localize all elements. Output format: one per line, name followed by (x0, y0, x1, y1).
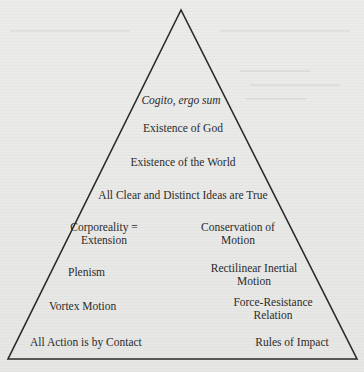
corporeality-line-2: Extension (70, 234, 137, 247)
tier-cogito: Cogito, ergo sum (141, 94, 220, 107)
left-vortex-motion: Vortex Motion (49, 300, 116, 313)
tier-existence-of-god: Existence of God (143, 122, 223, 135)
inertial-line-1: Rectilinear Inertial (211, 262, 298, 275)
corporeality-line-1: Corporeality = (70, 221, 137, 234)
right-conservation-of-motion: Conservation of Motion (201, 221, 275, 247)
conservation-line-2: Motion (201, 234, 275, 247)
left-action-by-contact: All Action is by Contact (30, 336, 142, 349)
left-corporeality-extension: Corporeality = Extension (70, 221, 137, 247)
force-line-2: Relation (233, 309, 312, 322)
left-plenism: Plenism (68, 266, 105, 279)
right-rectilinear-inertial-motion: Rectilinear Inertial Motion (211, 262, 298, 288)
inertial-line-2: Motion (211, 275, 298, 288)
conservation-line-1: Conservation of (201, 221, 275, 234)
right-force-resistance-relation: Force-Resistance Relation (233, 296, 312, 322)
right-rules-of-impact: Rules of Impact (255, 336, 328, 349)
tier-clear-distinct-ideas: All Clear and Distinct Ideas are True (98, 189, 267, 202)
tier-existence-of-world: Existence of the World (130, 156, 235, 169)
force-line-1: Force-Resistance (233, 296, 312, 309)
